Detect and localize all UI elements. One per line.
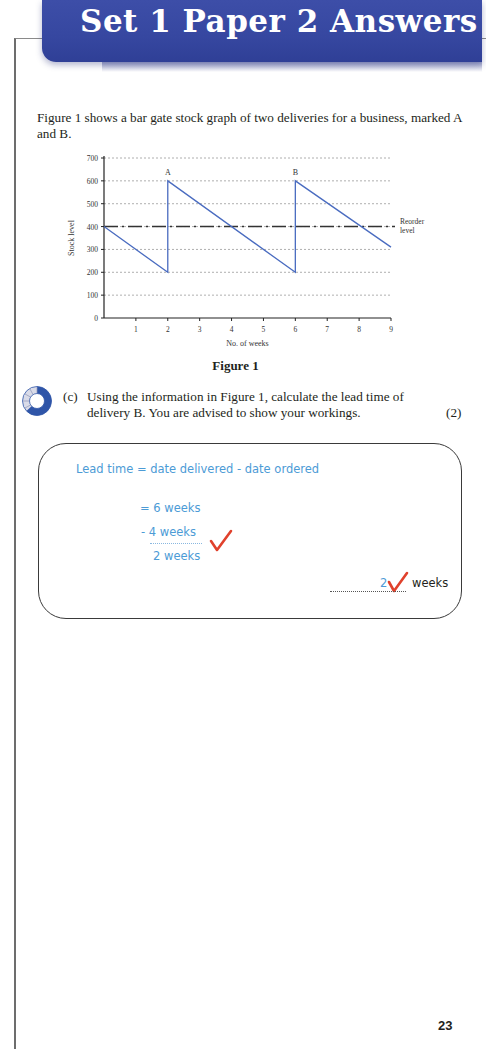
y-tick-label: 600 [87,177,99,186]
subtraction-rule [150,543,202,544]
correct-tick-icon [208,528,234,554]
x-tick-label: 5 [262,325,266,334]
x-tick-label: 7 [325,325,329,334]
answer-line [330,591,406,592]
question-text: Using the information in Figure 1, calcu… [87,389,432,421]
delivery-label-b: B [293,168,298,177]
x-tick-label: 6 [293,325,297,334]
x-tick-label: 8 [357,325,361,334]
y-tick-label: 300 [87,245,99,254]
y-tick-label: 700 [87,154,99,163]
x-axis-label: No. of weeks [226,339,268,348]
y-tick-label: 400 [87,223,99,232]
y-tick-label: 500 [87,200,99,209]
difficulty-gauge-icon [22,386,52,416]
answer-date-delivered: = 6 weeks [140,501,200,515]
x-tick-label: 4 [230,325,234,334]
figure-caption: Figure 1 [0,358,471,374]
reorder-level-label: level [400,226,415,235]
y-tick-label: 0 [94,314,98,323]
answer-result: 2 weeks [153,549,200,563]
answer-date-ordered: - 4 weeks [141,525,196,539]
chart-canvas: 0100200300400500600700123456789No. of we… [0,0,471,360]
delivery-label-a: A [165,168,171,177]
question-label: (c) [63,389,78,405]
x-tick-label: 9 [389,325,393,334]
answer-unit: weeks [412,576,448,590]
answer-formula: Lead time = date delivered - date ordere… [76,462,319,476]
question-marks: (2) [446,405,461,421]
x-tick-label: 3 [198,325,202,334]
x-tick-label: 2 [166,325,170,334]
page-number: 23 [438,1018,452,1033]
y-tick-label: 200 [87,268,99,277]
y-tick-label: 100 [87,291,99,300]
stock-chart: 0100200300400500600700123456789No. of we… [0,0,471,360]
y-axis-label: Stock level [67,219,76,256]
reorder-level-label: Reorder [400,217,425,226]
x-tick-label: 1 [134,325,138,334]
